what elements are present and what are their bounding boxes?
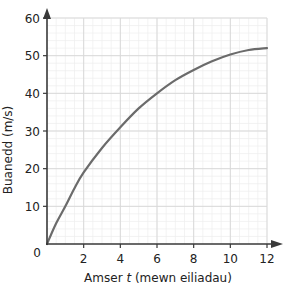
y-tick-label: 30 [25,125,40,139]
x-axis-arrow-icon [271,240,283,248]
x-tick-label: 2 [80,252,88,266]
x-tick-label: 6 [153,252,161,266]
x-axis-title-pre: Amser [84,271,126,285]
x-ticks: 24681012 [80,244,275,266]
x-tick-label: 10 [223,252,238,266]
y-tick-label: 60 [25,12,40,26]
y-tick-label: 50 [25,49,40,63]
y-tick-label: 40 [25,87,40,101]
y-tick-label: 10 [25,200,40,214]
y-axis-title: Buanedd (m/s) [1,106,15,195]
speed-time-chart: 24681012 102030405060 0 Amser t (mewn ei… [0,0,287,295]
origin-label: 0 [33,246,41,260]
y-ticks: 102030405060 [25,12,47,214]
major-grid [47,18,267,244]
x-tick-label: 8 [190,252,198,266]
x-axis-title-post: (mewn eiliadau) [131,271,232,285]
y-axis-arrow-icon [43,8,51,19]
x-axis-title: Amser t (mewn eiliadau) [84,271,232,285]
x-tick-label: 4 [117,252,125,266]
axes [43,8,283,248]
y-tick-label: 20 [25,162,40,176]
x-tick-label: 12 [259,252,274,266]
